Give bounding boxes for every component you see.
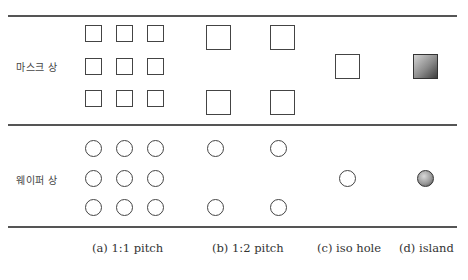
bottom-rule	[8, 226, 457, 228]
mask-square	[206, 25, 231, 50]
column-label-1-2-pitch: (b) 1:2 pitch	[212, 241, 284, 255]
wafer-circle	[270, 140, 287, 157]
mask-square	[147, 90, 164, 107]
wafer-iso-hole-circle	[339, 170, 356, 187]
mask-square	[147, 58, 164, 75]
column-label-iso-hole: (c) iso hole	[317, 241, 381, 255]
mask-square	[270, 90, 295, 115]
wafer-circle	[207, 140, 224, 157]
wafer-circle	[147, 199, 164, 216]
mask-square	[116, 58, 133, 75]
top-rule	[8, 15, 457, 17]
mask-square	[147, 25, 164, 42]
mask-iso-hole-square	[335, 54, 360, 79]
row-label-wafer: 웨이퍼 상	[16, 172, 58, 187]
wafer-circle	[116, 140, 133, 157]
mask-square	[116, 90, 133, 107]
wafer-circle	[207, 199, 224, 216]
wafer-circle	[85, 170, 102, 187]
figure-caption	[0, 271, 468, 280]
mask-square	[206, 90, 231, 115]
row-label-mask: 마스크 상	[16, 59, 58, 74]
wafer-circle	[147, 140, 164, 157]
wafer-circle	[270, 199, 287, 216]
wafer-circle	[116, 199, 133, 216]
wafer-island-circle	[417, 170, 434, 187]
mask-square	[116, 25, 133, 42]
wafer-circle	[147, 170, 164, 187]
wafer-circle	[116, 170, 133, 187]
mask-square	[85, 90, 102, 107]
mask-square	[85, 25, 102, 42]
wafer-circle	[85, 199, 102, 216]
mask-island-square	[413, 54, 438, 79]
column-label-island: (d) island	[399, 241, 454, 255]
column-label-1-1-pitch: (a) 1:1 pitch	[92, 241, 163, 255]
mask-square	[85, 58, 102, 75]
mask-square	[270, 25, 295, 50]
wafer-circle	[85, 140, 102, 157]
middle-rule	[8, 124, 457, 126]
